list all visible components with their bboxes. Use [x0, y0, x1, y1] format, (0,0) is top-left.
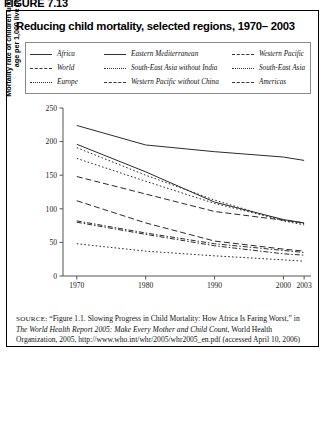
series-line: [77, 201, 304, 251]
legend-item-south-east-asia-without-india: South-East Asia without India: [104, 64, 232, 72]
series-line: [77, 125, 304, 160]
line-style-dot-icon: [104, 68, 126, 69]
x-tick-label: 1970: [69, 281, 84, 290]
y-tick-label: 150: [46, 171, 58, 180]
legend-item-americas: Americas: [232, 78, 286, 86]
source-prefix: SOURCE:: [16, 315, 47, 323]
line-style-dashdot-icon: [104, 82, 126, 83]
line-style-solid-icon: [104, 54, 126, 55]
legend-item-south-east-asia: South-East Asia: [232, 64, 305, 72]
source-text-1: “Figure 1.1. Slowing Progress in Child M…: [47, 314, 299, 323]
y-tick-label: 200: [46, 137, 58, 146]
legend-item-world: World: [30, 64, 104, 72]
line-style-solid-icon: [30, 54, 52, 55]
legend-item-europe: Europe: [30, 78, 104, 86]
legend-label: South-East Asia: [259, 64, 305, 72]
line-style-dashdot-icon: [232, 82, 254, 83]
legend-label: Europe: [57, 78, 78, 86]
x-tick-label: 1980: [138, 281, 153, 290]
legend-label: Africa: [57, 50, 75, 58]
y-tick-label: 0: [53, 272, 57, 281]
line-style-dash-icon: [232, 54, 254, 55]
y-tick-label: 250: [46, 104, 58, 113]
line-style-dot-icon: [30, 82, 52, 83]
series-line: [77, 148, 304, 225]
y-tick-label: 100: [46, 205, 58, 214]
x-tick-label: 2000: [276, 281, 291, 290]
line-chart: 05010015020025019701980199020002003: [29, 102, 319, 308]
legend-label: Western Pacific: [259, 50, 304, 58]
x-tick-label: 2003: [297, 281, 312, 290]
chart-legend: Africa Eastern Mediterranean Western Pac…: [25, 42, 311, 94]
chart-title: Reducing child mortality, selected regio…: [7, 11, 318, 33]
legend-row: Europe Western Pacific without China Ame…: [30, 75, 307, 89]
plot-area: Mortality rate of children under 5 years…: [7, 102, 318, 308]
legend-label: Western Pacific without China: [131, 78, 219, 86]
legend-item-western-pacific-without-china: Western Pacific without China: [104, 78, 232, 86]
y-axis-title: Mortality rate of children under 5 years…: [5, 0, 19, 130]
line-style-dash-icon: [30, 68, 52, 69]
figure-number: FIGURE 7.13: [0, 0, 325, 9]
legend-label: Eastern Mediterranean: [131, 50, 198, 58]
x-tick-label: 1990: [207, 281, 222, 290]
legend-label: South-East Asia without India: [131, 64, 217, 72]
figure-box: Reducing child mortality, selected regio…: [6, 10, 319, 347]
legend-item-eastern-mediterranean: Eastern Mediterranean: [104, 50, 232, 58]
y-tick-label: 50: [49, 238, 57, 247]
legend-item-western-pacific: Western Pacific: [232, 50, 304, 58]
line-style-dot-icon: [232, 68, 254, 69]
legend-row: Africa Eastern Mediterranean Western Pac…: [30, 47, 307, 61]
source-italic-title: The World Health Report 2005: Make Every…: [16, 325, 227, 334]
series-line: [77, 244, 304, 261]
legend-row: World South-East Asia without India Sout…: [30, 61, 307, 75]
legend-label: Americas: [259, 78, 286, 86]
legend-label: World: [57, 64, 74, 72]
y-axis-title-line2: age per 1,000 live births: [13, 0, 21, 130]
legend-item-africa: Africa: [30, 50, 104, 58]
source-note: SOURCE: “Figure 1.1. Slowing Progress in…: [16, 314, 310, 345]
